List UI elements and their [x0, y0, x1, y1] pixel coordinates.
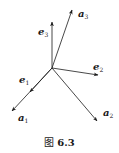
- vector-a3-arrow: [52, 10, 72, 68]
- label-a1: a1: [18, 113, 28, 124]
- vector-a2-arrow: [52, 68, 97, 121]
- label-e1: e1: [19, 75, 29, 86]
- label-e3: e3: [38, 27, 48, 38]
- figure-caption: 图6.3: [0, 134, 119, 149]
- vector-diagram: [0, 0, 119, 153]
- label-e2: e2: [93, 62, 103, 73]
- label-a3: a3: [78, 9, 88, 20]
- caption-number: 6.3: [57, 137, 74, 148]
- label-a2: a2: [103, 108, 113, 119]
- caption-prefix: 图: [44, 137, 54, 148]
- vector-e1-arrow: [30, 68, 52, 92]
- vector-e2-arrow: [52, 68, 98, 75]
